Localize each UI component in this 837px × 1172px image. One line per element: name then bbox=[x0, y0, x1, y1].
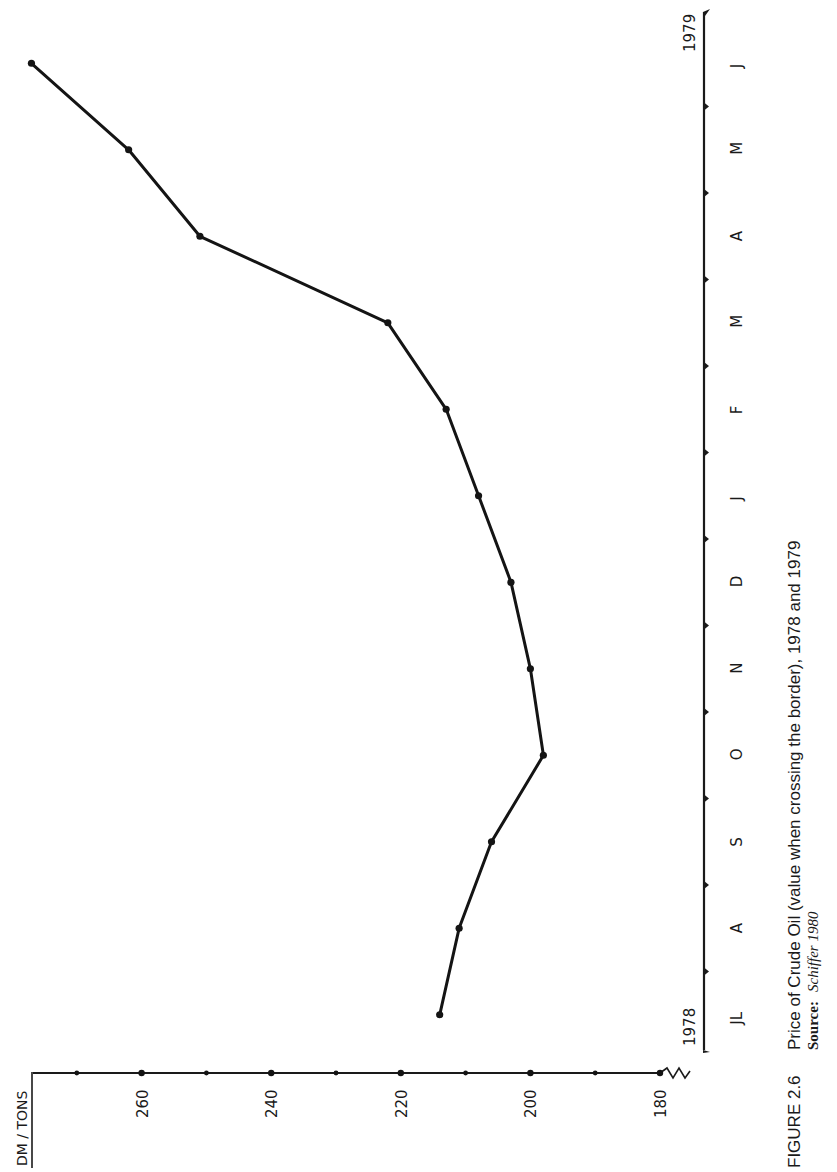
x-tick-label: A bbox=[728, 230, 746, 241]
y-tick-label: 260 bbox=[134, 1089, 152, 1118]
axis-break-icon bbox=[660, 1068, 690, 1078]
y-tick bbox=[527, 1070, 533, 1076]
x-tick-label: M bbox=[728, 315, 746, 328]
start-year-label: 1978 bbox=[681, 1008, 699, 1046]
x-tick-label: M bbox=[728, 142, 746, 155]
source-label: Source: bbox=[805, 1001, 821, 1050]
data-point bbox=[436, 1011, 443, 1018]
chart: 180200220240260 JLASONDJFMAMJ DM / TONS … bbox=[0, 0, 837, 1172]
y-tick bbox=[657, 1070, 663, 1076]
x-tick-label: A bbox=[728, 922, 746, 933]
x-tick bbox=[704, 276, 709, 284]
data-point bbox=[384, 319, 391, 326]
y-tick bbox=[593, 1071, 598, 1076]
x-tick bbox=[704, 362, 709, 370]
data-point bbox=[125, 146, 132, 153]
x-tick bbox=[704, 449, 709, 457]
y-tick-label: 220 bbox=[393, 1089, 411, 1118]
data-point bbox=[456, 925, 463, 932]
x-tick bbox=[704, 189, 709, 197]
figure-title: Price of Crude Oil (value when crossing … bbox=[785, 541, 804, 1050]
data-point bbox=[28, 60, 35, 67]
figure-caption: FIGURE 2.6 Price of Crude Oil (value whe… bbox=[785, 541, 821, 1168]
y-tick bbox=[74, 1071, 79, 1076]
price-line bbox=[31, 63, 543, 1015]
data-point bbox=[507, 579, 514, 586]
x-tick bbox=[704, 795, 709, 803]
data-point bbox=[488, 838, 495, 845]
y-tick bbox=[204, 1071, 209, 1076]
x-tick-label: D bbox=[728, 576, 746, 588]
y-axis: 180200220240260 bbox=[33, 1068, 690, 1118]
data-point bbox=[443, 406, 450, 413]
data-point bbox=[475, 492, 482, 499]
data-point bbox=[540, 752, 547, 759]
data-point bbox=[196, 233, 203, 240]
x-tick bbox=[704, 881, 709, 889]
x-tick bbox=[704, 103, 709, 111]
x-tick-label: O bbox=[728, 748, 746, 760]
x-tick bbox=[704, 622, 709, 630]
x-tick-label: S bbox=[728, 837, 746, 847]
y-tick-label: 180 bbox=[652, 1089, 670, 1118]
x-tick bbox=[704, 968, 709, 976]
y-tick-label: 200 bbox=[522, 1089, 540, 1118]
x-tick-label: F bbox=[728, 406, 746, 415]
x-tick-label: N bbox=[728, 663, 746, 674]
y-tick bbox=[334, 1071, 339, 1076]
x-axis: JLASONDJFMAMJ bbox=[703, 9, 746, 1053]
x-tick-label: J bbox=[728, 64, 746, 69]
source-value: Schiffer 1980 bbox=[805, 911, 821, 992]
y-tick bbox=[268, 1070, 274, 1076]
x-tick-label: JL bbox=[728, 1011, 746, 1025]
data-point bbox=[527, 665, 534, 672]
end-year-label: 1979 bbox=[681, 14, 699, 52]
price-series bbox=[28, 60, 547, 1019]
x-tick bbox=[704, 708, 709, 716]
x-tick-label: J bbox=[728, 496, 746, 501]
x-tick bbox=[704, 535, 709, 543]
y-tick bbox=[398, 1070, 404, 1076]
y-tick bbox=[138, 1070, 144, 1076]
y-tick-label: 240 bbox=[263, 1089, 281, 1118]
y-axis-unit-label: DM / TONS bbox=[14, 1090, 30, 1166]
y-tick bbox=[463, 1071, 468, 1076]
figure-number: FIGURE 2.6 bbox=[785, 1075, 804, 1168]
